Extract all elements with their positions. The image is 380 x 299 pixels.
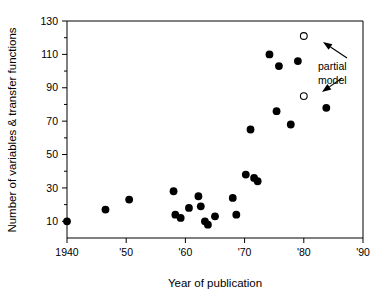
data-point <box>322 104 330 112</box>
data-point <box>177 214 185 222</box>
data-point <box>63 217 71 225</box>
data-point <box>275 62 283 70</box>
x-tick-label: 1940 <box>55 246 79 258</box>
data-series-complete-model <box>63 50 330 228</box>
data-point <box>211 212 219 220</box>
data-point <box>102 206 110 214</box>
x-tick-label: '50 <box>119 246 133 258</box>
partial-model-label-line2: model <box>318 74 347 86</box>
data-point <box>287 121 295 129</box>
y-tick-label: 110 <box>41 48 58 60</box>
scatter-plot-figure: 1030507090110130 1940'50'60'70'80'90 par… <box>0 0 380 299</box>
axes-frame <box>67 21 363 238</box>
annotation-arrow-shaft <box>330 47 347 58</box>
y-axis-ticks <box>62 21 67 221</box>
data-point <box>185 204 193 212</box>
data-point <box>229 194 237 202</box>
x-axis-tick-labels: 1940'50'60'70'80'90 <box>55 246 370 258</box>
x-tick-label: '70 <box>238 246 252 258</box>
data-point <box>195 192 203 200</box>
y-axis-title: Number of variables & transfer functions <box>6 27 18 232</box>
y-tick-label: 50 <box>46 148 58 160</box>
data-point <box>232 211 240 219</box>
data-point <box>125 196 133 204</box>
x-tick-label: '80 <box>297 246 311 258</box>
y-axis-tick-labels: 1030507090110130 <box>40 15 58 227</box>
data-point <box>170 187 178 195</box>
data-point <box>273 107 281 115</box>
data-point <box>242 171 250 179</box>
x-axis-ticks <box>67 238 363 243</box>
data-point <box>247 126 255 134</box>
y-tick-label: 70 <box>46 115 58 127</box>
partial-model-label-line1: partial <box>318 60 347 72</box>
data-point-partial <box>300 33 307 40</box>
data-point <box>266 50 274 58</box>
data-point <box>294 57 302 65</box>
y-tick-label: 90 <box>46 81 58 93</box>
annotation-arrow-head <box>323 42 332 50</box>
plot-canvas: 1030507090110130 1940'50'60'70'80'90 par… <box>0 0 380 299</box>
data-series-partial-model <box>300 33 307 100</box>
x-tick-label: '90 <box>356 246 370 258</box>
data-point <box>204 221 212 229</box>
data-point-partial <box>300 93 307 100</box>
y-tick-label: 10 <box>46 215 58 227</box>
x-axis-title: Year of publication <box>168 277 262 289</box>
data-point <box>197 202 205 210</box>
y-tick-label: 30 <box>46 182 58 194</box>
x-tick-label: '60 <box>179 246 193 258</box>
y-tick-label: 130 <box>40 15 58 27</box>
data-point <box>254 177 262 185</box>
